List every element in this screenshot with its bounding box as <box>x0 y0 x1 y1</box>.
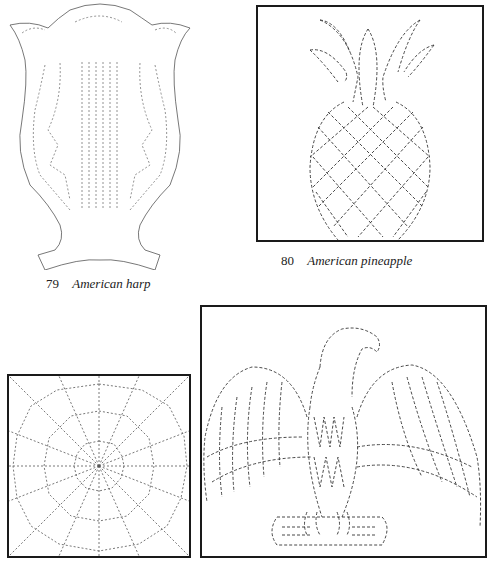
harp-pattern-illustration <box>0 0 200 270</box>
pineapple-pattern-illustration <box>258 7 482 240</box>
eagle-frame <box>200 305 487 558</box>
figure-eagle <box>200 305 487 564</box>
figure-caption: 80 American pineapple <box>281 253 412 269</box>
pineapple-frame <box>256 5 484 242</box>
figure-number: 79 <box>46 276 59 291</box>
figure-american-pineapple: 80 American pineapple <box>256 5 486 270</box>
figure-caption: 79 American harp <box>46 276 151 292</box>
figure-title: American pineapple <box>307 253 412 268</box>
figure-american-harp: 79 American harp <box>0 0 200 300</box>
eagle-pattern-illustration <box>202 307 485 556</box>
figure-spider-web <box>7 374 191 564</box>
spider-web-frame <box>7 374 191 558</box>
figure-number: 80 <box>281 253 294 268</box>
spider-web-pattern-illustration <box>9 376 189 556</box>
figure-title: American harp <box>72 276 150 291</box>
